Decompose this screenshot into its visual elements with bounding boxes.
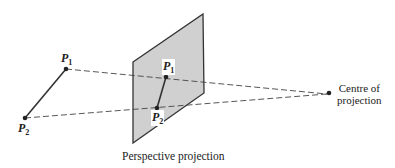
centre-of-projection-label: Centre of projection [337, 82, 382, 106]
centre-of-projection-point [327, 91, 332, 96]
centre-label-line1: Centre of [337, 82, 382, 94]
perspective-diagram [0, 0, 395, 168]
label-p2-proj: P2 [151, 110, 164, 126]
label-p2: P2 [18, 121, 29, 137]
centre-label-line2: projection [337, 94, 382, 106]
caption: Perspective projection [122, 150, 225, 162]
point-p2 [23, 116, 28, 121]
label-p1: P1 [61, 51, 72, 67]
label-p1-proj: P1 [162, 59, 175, 75]
segment-p1-p2 [25, 69, 66, 118]
